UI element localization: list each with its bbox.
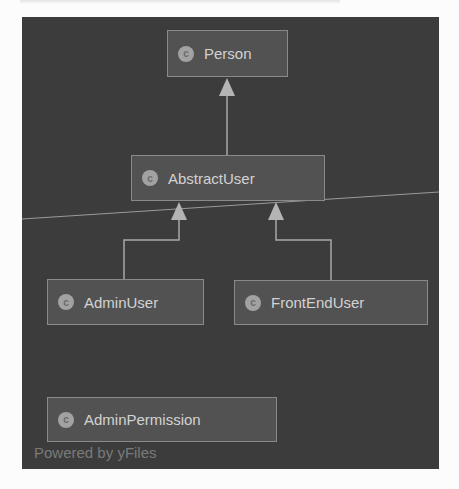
class-icon: c <box>58 294 74 310</box>
class-icon: c <box>245 295 261 311</box>
node-label: FrontEndUser <box>271 294 364 311</box>
node-label: Person <box>204 45 252 62</box>
yfiles-watermark: Powered by yFiles <box>34 444 157 461</box>
node-label: AdminUser <box>84 294 158 311</box>
node-person[interactable]: c Person <box>167 30 288 77</box>
node-admin-permission[interactable]: c AdminPermission <box>47 397 277 442</box>
node-label: AdminPermission <box>84 411 201 428</box>
node-front-end-user[interactable]: c FrontEndUser <box>234 280 428 325</box>
node-label: AbstractUser <box>168 170 255 187</box>
clipped-header-remnant <box>20 0 340 4</box>
node-admin-user[interactable]: c AdminUser <box>47 279 204 325</box>
class-icon: c <box>142 170 158 186</box>
class-icon: c <box>178 46 194 62</box>
node-abstract-user[interactable]: c AbstractUser <box>131 155 325 201</box>
class-icon: c <box>58 412 74 428</box>
